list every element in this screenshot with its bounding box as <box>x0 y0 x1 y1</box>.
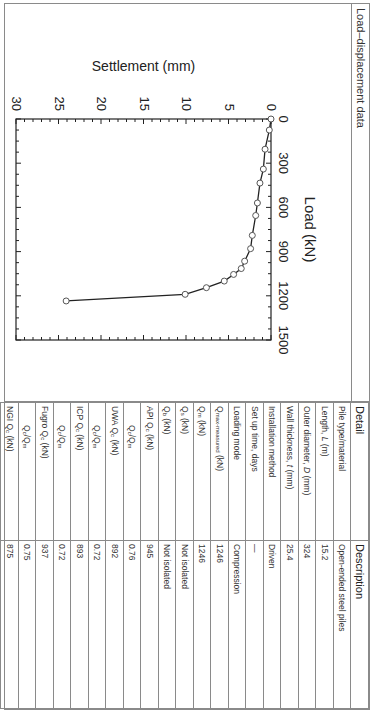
detail-cell: Length, L (m) <box>316 403 334 541</box>
y-tick-label: 5 <box>222 104 237 111</box>
description-cell: 0.72 <box>54 541 72 709</box>
data-point <box>266 127 272 133</box>
detail-cell: Wall thickness, t (mm) <box>281 403 299 541</box>
x-tick-label: 300 <box>276 152 291 174</box>
y-tick-label: 10 <box>179 97 194 111</box>
table-row: Wall thickness, t (mm)25.4 <box>281 403 299 709</box>
y-tick-label: 25 <box>52 97 67 111</box>
header-description: Description <box>351 541 369 709</box>
page: Load–displacement data 03006009001200150… <box>0 0 373 714</box>
table-row: Length, L (m)15.2 <box>316 403 334 709</box>
table-row: Set up time, days— <box>246 403 264 709</box>
detail-cell: ICP Qc (kN) <box>71 403 89 541</box>
table-row: API Qc (kN)945 <box>141 403 159 709</box>
data-point <box>249 232 255 238</box>
header-detail: Detail <box>351 403 369 541</box>
description-cell: Not isolated <box>159 541 177 709</box>
table-row: Outer diameter, D (mm)324 <box>299 403 317 709</box>
detail-cell: NGI Qc (kN) <box>1 403 19 541</box>
detail-cell: API Qc (kN) <box>141 403 159 541</box>
details-table: Detail Description Pile type/materialOpe… <box>0 402 369 709</box>
description-cell: 937 <box>36 541 54 709</box>
description-cell: 892 <box>106 541 124 709</box>
x-tick-label: 1200 <box>276 281 291 310</box>
plot-frame <box>16 119 271 340</box>
table-row: Pile type/materialOpen-ended steel piles <box>334 403 352 709</box>
description-cell: 0.76 <box>124 541 142 709</box>
detail-cell: Set up time, days <box>246 403 264 541</box>
panel-title: Load–displacement data <box>351 4 369 401</box>
table-row: Qc/Qm0.75 <box>19 403 37 709</box>
table-row: Qmax-measured (kN)1246 <box>211 403 229 709</box>
description-cell: 1246 <box>211 541 229 709</box>
description-cell: 324 <box>299 541 317 709</box>
description-cell: 945 <box>141 541 159 709</box>
y-tick-label: 0 <box>264 104 279 111</box>
description-cell: Open-ended steel piles <box>334 541 352 709</box>
data-point <box>238 266 244 272</box>
detail-cell: Qmax-measured (kN) <box>211 403 229 541</box>
data-point <box>203 285 209 291</box>
figure-frame: Load–displacement data 03006009001200150… <box>4 3 370 710</box>
detail-cell: Qb (kN) <box>159 403 177 541</box>
y-tick-label: 15 <box>137 97 152 111</box>
detail-cell: Fugro Qc (kN) <box>36 403 54 541</box>
table-row: Qs (kN)Not isolated <box>176 403 194 709</box>
description-cell: 0.72 <box>89 541 107 709</box>
y-tick-label: 20 <box>94 97 109 111</box>
table-row: Fugro Qc (kN)937 <box>36 403 54 709</box>
detail-cell: Installation method <box>264 403 282 541</box>
description-cell: Not isolated <box>176 541 194 709</box>
x-tick-label: 900 <box>276 241 291 263</box>
data-point <box>221 278 227 284</box>
detail-cell: Qm (kN) <box>194 403 212 541</box>
detail-cell: Qc/Qm <box>124 403 142 541</box>
data-point <box>253 213 259 219</box>
description-cell: 1246 <box>194 541 212 709</box>
description-cell: 25.4 <box>281 541 299 709</box>
table-row: ICP Qc (kN)893 <box>71 403 89 709</box>
table-row: Qc/Qm0.76 <box>124 403 142 709</box>
data-point <box>231 271 237 277</box>
detail-cell: Qc/Qm <box>89 403 107 541</box>
x-axis-label: Load (kN) <box>302 197 319 263</box>
detail-cell: Qs (kN) <box>176 403 194 541</box>
detail-cell: Qc/Qm <box>54 403 72 541</box>
series-line <box>66 119 271 301</box>
description-cell: 15.2 <box>316 541 334 709</box>
x-tick-label: 0 <box>276 115 291 122</box>
detail-cell: Qc/Qm <box>19 403 37 541</box>
description-cell: Compression <box>229 541 247 709</box>
table-row: NGI Qc (kN)875 <box>1 403 19 709</box>
description-cell: — <box>246 541 264 709</box>
data-point <box>257 180 263 186</box>
data-point <box>182 291 188 297</box>
table-row: Installation methodDriven <box>264 403 282 709</box>
y-axis-label: Settlement (mm) <box>92 58 195 74</box>
description-cell: 0.75 <box>19 541 37 709</box>
data-point <box>262 146 268 152</box>
description-cell: 893 <box>71 541 89 709</box>
x-tick-label: 1500 <box>276 326 291 355</box>
data-point <box>254 200 260 206</box>
detail-cell: UWA Qc (kN) <box>106 403 124 541</box>
description-cell: Driven <box>264 541 282 709</box>
y-tick-label: 30 <box>9 97 24 111</box>
description-cell: 0.70 <box>0 541 1 709</box>
data-point <box>268 116 274 122</box>
table-row: Qc/Qm0.70 <box>0 403 1 709</box>
data-point <box>260 166 266 172</box>
data-point <box>242 258 248 264</box>
table-header-row: Detail Description <box>351 403 369 709</box>
load-settlement-chart: 030060090012001500051015202530Load (kN)S… <box>4 4 351 401</box>
detail-cell: Loading mode <box>229 403 247 541</box>
table-row: UWA Qc (kN)892 <box>106 403 124 709</box>
table-row: Qc/Qm0.72 <box>89 403 107 709</box>
data-point <box>248 246 254 252</box>
table-row: Qb (kN)Not isolated <box>159 403 177 709</box>
data-point <box>63 298 69 304</box>
detail-cell: Outer diameter, D (mm) <box>299 403 317 541</box>
description-cell: 875 <box>1 541 19 709</box>
chart-panel: Load–displacement data 03006009001200150… <box>5 4 369 402</box>
detail-cell: Qc/Qm <box>0 403 1 541</box>
